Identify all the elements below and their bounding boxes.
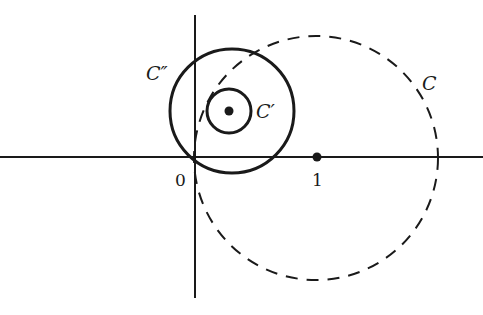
origin-label: 0 <box>175 170 186 190</box>
unit-point <box>313 153 322 162</box>
label-c: C <box>422 72 437 94</box>
label-c-prime: C′ <box>256 100 276 122</box>
label-c-double-prime: C″ <box>146 62 168 84</box>
unit-label: 1 <box>312 170 323 190</box>
center-point <box>225 107 234 116</box>
diagram-canvas: 0 1 C″ C′ C <box>0 0 483 315</box>
